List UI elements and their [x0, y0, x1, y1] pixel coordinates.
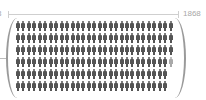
person-icon — [65, 21, 69, 31]
person-icon — [27, 45, 31, 55]
person-icon — [27, 33, 31, 43]
person-icon — [109, 45, 113, 55]
person-icon — [38, 81, 42, 91]
person-icon — [141, 81, 145, 91]
person-icon — [38, 69, 42, 79]
person-icon — [65, 69, 69, 79]
person-icon — [158, 45, 162, 55]
person-icon — [120, 81, 124, 91]
person-icon — [158, 21, 162, 31]
person-icon — [163, 33, 167, 43]
person-icon — [92, 69, 96, 79]
person-icon — [147, 21, 151, 31]
person-icon — [120, 57, 124, 67]
person-icon — [76, 21, 80, 31]
person-icon — [49, 21, 53, 31]
person-icon — [136, 69, 140, 79]
person-icon — [136, 21, 140, 31]
person-icon — [81, 57, 85, 67]
person-icon — [60, 57, 64, 67]
person-icon — [169, 57, 173, 67]
person-icon — [109, 21, 113, 31]
person-icon — [152, 21, 156, 31]
person-icon — [125, 33, 129, 43]
person-icon — [16, 69, 20, 79]
person-icon — [16, 33, 20, 43]
person-icon — [152, 45, 156, 55]
person-icon — [49, 45, 53, 55]
person-icon — [32, 81, 36, 91]
person-icon — [125, 21, 129, 31]
person-icon — [169, 45, 173, 55]
person-icon — [54, 81, 58, 91]
person-icon — [163, 57, 167, 67]
person-icon — [43, 33, 47, 43]
person-icon — [54, 21, 58, 31]
person-icon — [114, 69, 118, 79]
person-icon — [125, 81, 129, 91]
person-icon — [92, 33, 96, 43]
person-icon — [38, 33, 42, 43]
person-icon — [87, 57, 91, 67]
person-icon — [147, 69, 151, 79]
person-icon — [125, 69, 129, 79]
person-icon — [65, 45, 69, 55]
person-icon — [60, 33, 64, 43]
person-icon — [76, 69, 80, 79]
timeline-tick-left — [8, 11, 9, 18]
timeline-line — [8, 14, 178, 15]
person-icon — [130, 69, 134, 79]
person-icon — [38, 57, 42, 67]
person-icon — [103, 81, 107, 91]
person-icon — [60, 81, 64, 91]
person-icon — [152, 81, 156, 91]
person-icon — [98, 81, 102, 91]
person-icon — [87, 81, 91, 91]
person-icon — [71, 45, 75, 55]
person-icon — [130, 45, 134, 55]
person-icon — [76, 81, 80, 91]
person-icon — [27, 21, 31, 31]
person-icon — [120, 33, 124, 43]
person-icon — [130, 33, 134, 43]
person-icon — [21, 57, 25, 67]
person-icon — [27, 69, 31, 79]
person-icon — [54, 33, 58, 43]
person-icon — [92, 21, 96, 31]
person-icon — [81, 21, 85, 31]
person-icon — [71, 33, 75, 43]
person-icon — [27, 57, 31, 67]
person-icon — [87, 69, 91, 79]
person-icon — [98, 45, 102, 55]
person-icon — [49, 33, 53, 43]
person-icon — [141, 21, 145, 31]
person-icon — [38, 21, 42, 31]
person-icon — [65, 33, 69, 43]
person-icon — [71, 57, 75, 67]
person-icon — [109, 69, 113, 79]
person-icon — [54, 45, 58, 55]
person-icon — [136, 33, 140, 43]
person-icon — [32, 33, 36, 43]
person-icon — [49, 69, 53, 79]
person-icon — [92, 45, 96, 55]
person-icon — [158, 69, 162, 79]
person-icon — [32, 69, 36, 79]
person-icon — [109, 57, 113, 67]
person-icon — [141, 45, 145, 55]
person-icon — [98, 33, 102, 43]
person-icon — [76, 45, 80, 55]
person-icon — [163, 45, 167, 55]
person-icon — [38, 45, 42, 55]
person-icon — [43, 57, 47, 67]
person-icon — [103, 21, 107, 31]
person-icon — [103, 57, 107, 67]
person-icon — [81, 69, 85, 79]
person-icon — [147, 81, 151, 91]
person-icon — [163, 81, 167, 91]
person-icon — [114, 21, 118, 31]
person-icon — [120, 45, 124, 55]
person-icon — [125, 57, 129, 67]
person-icon — [71, 21, 75, 31]
person-icon — [147, 57, 151, 67]
